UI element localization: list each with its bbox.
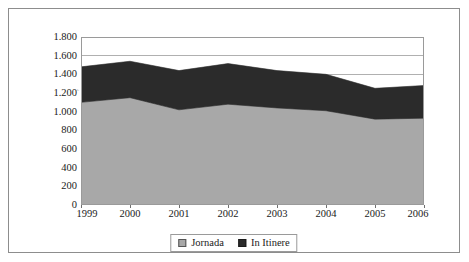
x-tick-label: 2000 bbox=[120, 208, 141, 219]
chart-legend: JornadaIn Itinere bbox=[170, 234, 297, 252]
y-tick-label: 1.800 bbox=[23, 32, 77, 42]
y-tick-label: 1.000 bbox=[23, 107, 77, 117]
x-tick-label: 1999 bbox=[77, 208, 98, 219]
x-tick-label: 2001 bbox=[169, 208, 190, 219]
y-tick-label: 800 bbox=[23, 125, 77, 135]
chart-frame: ‸ 02004006008001.0001.2001.4001.6001.800… bbox=[8, 8, 460, 253]
legend-entry-jornada[interactable]: Jornada bbox=[178, 237, 224, 248]
y-tick-label: 600 bbox=[23, 144, 77, 154]
plot-area bbox=[81, 37, 424, 205]
legend-label: Jornada bbox=[191, 237, 224, 248]
legend-label: In Itinere bbox=[251, 237, 290, 248]
y-tick-label: 200 bbox=[23, 181, 77, 191]
x-tick-label: 2004 bbox=[316, 208, 337, 219]
x-tick-label: 2003 bbox=[267, 208, 288, 219]
stacked-area-chart bbox=[81, 37, 424, 205]
x-tick-label: 2002 bbox=[218, 208, 239, 219]
y-tick-label: 1.200 bbox=[23, 88, 77, 98]
y-tick-label: 1.400 bbox=[23, 69, 77, 79]
y-tick-label: 0 bbox=[23, 200, 77, 210]
y-tick-label: 1.600 bbox=[23, 51, 77, 61]
x-axis: 19992000200120022003200420052006 bbox=[81, 208, 424, 224]
y-tick-label: 400 bbox=[23, 163, 77, 173]
x-tick-label: 2005 bbox=[365, 208, 386, 219]
figure-container: ‸ 02004006008001.0001.2001.4001.6001.800… bbox=[0, 0, 469, 262]
legend-swatch-icon bbox=[178, 239, 186, 247]
legend-entry-in-itinere[interactable]: In Itinere bbox=[238, 237, 290, 248]
y-axis: 02004006008001.0001.2001.4001.6001.800 bbox=[17, 37, 77, 205]
x-tick-label: 2006 bbox=[408, 208, 429, 219]
cut-off-title-text bbox=[120, 0, 420, 6]
legend-swatch-icon bbox=[238, 239, 246, 247]
